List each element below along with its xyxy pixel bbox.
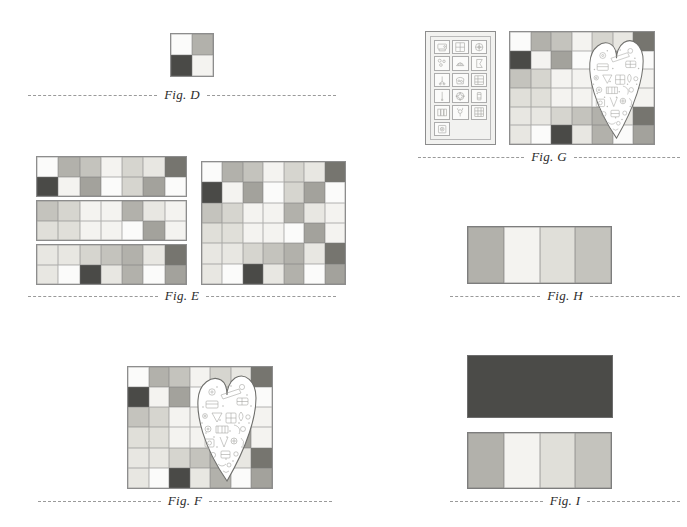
fig-e-caption-row: Fig. E (28, 289, 336, 303)
fig-e-strip-cell (143, 265, 164, 285)
fig-f-caption-row: Fig. F (38, 494, 332, 508)
fig-e-strip-cell (37, 157, 58, 177)
fig-e-assembled-grid (201, 161, 346, 285)
fig-e-cell (325, 243, 345, 263)
fig-e-strip-cell (58, 157, 79, 177)
fig-f-cell (149, 448, 170, 468)
fig-i-band (468, 433, 504, 488)
fig-e-strip-cell (165, 157, 186, 177)
fig-e-strip-cell (80, 177, 101, 197)
fig-e-strip-cell (143, 157, 164, 177)
fig-g-cell (531, 51, 552, 70)
fig-i-band (575, 433, 611, 488)
fig-f-cell (128, 407, 149, 427)
fig-f-cell (190, 468, 211, 488)
fig-e-cell (263, 243, 283, 263)
fig-g-cell (592, 88, 613, 107)
fig-f-cell (169, 468, 190, 488)
fig-e-cell (222, 223, 242, 243)
fig-e-strip-cell (37, 201, 58, 221)
fig-e-strip-cell (143, 245, 164, 265)
fig-f-cell (128, 387, 149, 407)
fig-g-cell (592, 125, 613, 144)
fig-i-caption-row: Fig. I (450, 494, 680, 508)
caption-rule-left (38, 501, 161, 502)
fig-e-cell (284, 243, 304, 263)
fig-g-cell (551, 125, 572, 144)
fig-e-cell (325, 203, 345, 223)
fig-g-cell (531, 125, 552, 144)
fig-g-cell (551, 32, 572, 51)
fig-e-cell (202, 223, 222, 243)
fig-f-cell (149, 468, 170, 488)
fig-e-strip-cell (143, 177, 164, 197)
needle-icon (434, 89, 450, 103)
fig-e-strip-cell (80, 221, 101, 241)
fig-g-cell (510, 125, 531, 144)
fig-e-strip-cell (101, 201, 122, 221)
fig-g-cell (510, 88, 531, 107)
fig-e-strip-cell (165, 245, 186, 265)
fig-e-cell (202, 203, 222, 223)
fig-e-strip-cell (143, 201, 164, 221)
fig-g-cell (592, 69, 613, 88)
fig-g-caption: Fig. G (531, 149, 567, 165)
fig-f-cell (190, 448, 211, 468)
caption-rule-right (206, 296, 336, 297)
fig-g-cell (572, 32, 593, 51)
fig-e-cell (304, 243, 324, 263)
fig-e-strip-cell (122, 245, 143, 265)
fig-g-cell (551, 51, 572, 70)
caption-rule-left (28, 95, 157, 96)
fig-e-caption: Fig. E (165, 288, 199, 304)
fig-e-strip-cell (80, 201, 101, 221)
fig-g-cell (572, 125, 593, 144)
fig-e-cell (263, 162, 283, 182)
fig-e-strip-cell (80, 157, 101, 177)
grid-block-icon (471, 105, 487, 119)
fig-f-cell (210, 468, 231, 488)
fig-g-printed-fabric-panel (425, 31, 496, 145)
fig-e-cell (263, 182, 283, 202)
fig-g-cell (531, 69, 552, 88)
fig-e-cell (202, 264, 222, 284)
fig-e-strip-cell (101, 157, 122, 177)
fig-e-strip-cell (37, 265, 58, 285)
sewing-machine-icon (434, 40, 450, 54)
fig-g-cell (572, 51, 593, 70)
fig-f-cell (231, 387, 252, 407)
fig-g-cell (510, 32, 531, 51)
fig-g-cell (572, 107, 593, 126)
fig-g-cell (551, 107, 572, 126)
fig-d-caption: Fig. D (164, 87, 200, 103)
fig-g-cell (551, 69, 572, 88)
fig-f-cell (231, 427, 252, 447)
diagram-page: Fig. D Fig. E (0, 0, 687, 527)
fig-f-cell (149, 387, 170, 407)
fig-e-strip-cell (122, 177, 143, 197)
fig-f-cell (149, 367, 170, 387)
fig-f-cell (251, 387, 272, 407)
fig-h-band-strip (467, 226, 612, 284)
fig-e-cell (263, 264, 283, 284)
fig-e-cell (304, 162, 324, 182)
fig-e-strip-cell (165, 201, 186, 221)
fig-e-strip-row-3 (36, 244, 187, 285)
fig-e-cell (325, 264, 345, 284)
fig-g-cell (633, 69, 654, 88)
fig-e-strip-cell (37, 221, 58, 241)
fig-e-strip-cell (165, 177, 186, 197)
fig-g-cell (592, 32, 613, 51)
fig-g-cell (633, 51, 654, 70)
fig-g-cell (613, 32, 634, 51)
scissors-icon (434, 73, 450, 87)
fig-e-cell (243, 264, 263, 284)
fig-f-cell (169, 427, 190, 447)
fig-e-cell (222, 182, 242, 202)
fig-e-strip-cell (101, 265, 122, 285)
fig-e-cell (243, 223, 263, 243)
fig-e-cell (202, 243, 222, 263)
fig-e-strip-row-2 (36, 200, 187, 241)
fig-d-caption-row: Fig. D (28, 88, 336, 102)
fig-e-strip-cell (143, 221, 164, 241)
